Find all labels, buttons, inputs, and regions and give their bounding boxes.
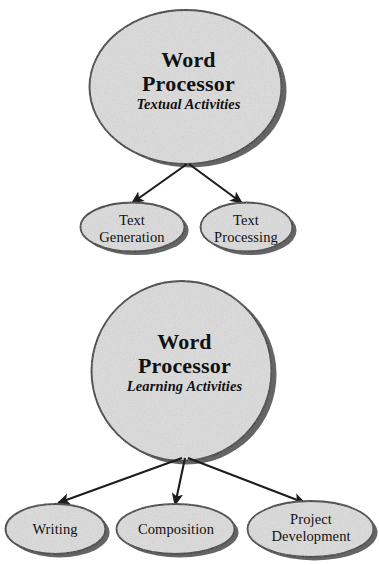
node-project-development[interactable] bbox=[248, 501, 378, 561]
node-writing[interactable] bbox=[6, 504, 110, 558]
connector-learning-to-composition bbox=[175, 458, 185, 505]
node-body bbox=[248, 501, 374, 557]
diagram-canvas bbox=[0, 0, 379, 565]
connector-group-learning bbox=[58, 458, 305, 505]
node-text-generation[interactable] bbox=[81, 203, 189, 256]
node-body bbox=[117, 504, 235, 554]
diagram-root: Word Processor Textual Activities Text G… bbox=[0, 0, 379, 565]
node-body bbox=[201, 203, 293, 252]
node-body bbox=[6, 504, 106, 554]
node-composition[interactable] bbox=[117, 504, 239, 558]
connector-learning-to-writing bbox=[58, 458, 182, 503]
connector-textual-to-text-generation bbox=[132, 164, 187, 203]
connector-textual-to-text-processing bbox=[189, 164, 242, 203]
node-body bbox=[90, 10, 282, 164]
node-hub-textual[interactable] bbox=[90, 10, 287, 168]
node-hub-learning[interactable] bbox=[92, 281, 277, 465]
node-text-processing[interactable] bbox=[201, 203, 297, 256]
node-body bbox=[81, 203, 185, 252]
connector-group-textual bbox=[132, 164, 242, 203]
connector-learning-to-project-development bbox=[188, 458, 305, 503]
node-body bbox=[92, 281, 272, 461]
